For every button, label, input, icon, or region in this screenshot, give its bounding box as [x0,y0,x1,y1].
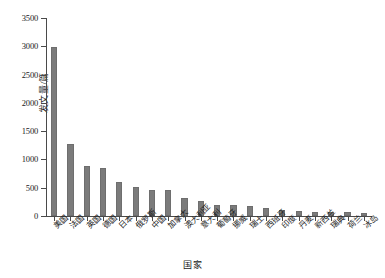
bar [51,47,57,216]
bar [116,182,122,216]
y-tick [41,216,46,217]
bar [84,166,90,216]
y-tick-label: 0 [34,212,38,220]
bar [296,211,302,216]
x-axis-title: 国家 [0,258,385,271]
y-tick-label: 2000 [22,99,38,107]
bar [312,212,318,216]
bars-layer [46,18,372,216]
y-tick-label: 3500 [22,14,38,22]
y-tick-label: 3000 [22,42,38,50]
bar [361,213,367,216]
y-tick-label: 1000 [22,155,38,163]
y-tick-label: 2500 [22,71,38,79]
bar [165,190,171,216]
bar [100,168,106,216]
bar [247,206,253,216]
bar [344,212,350,216]
bar [133,187,139,216]
y-tick-label: 500 [26,184,38,192]
bar-chart: 发文量/篇 0500100015002000250030003500 美国法国英… [0,0,385,278]
bar [67,144,73,216]
bar [263,208,269,216]
y-tick-label: 1500 [22,127,38,135]
